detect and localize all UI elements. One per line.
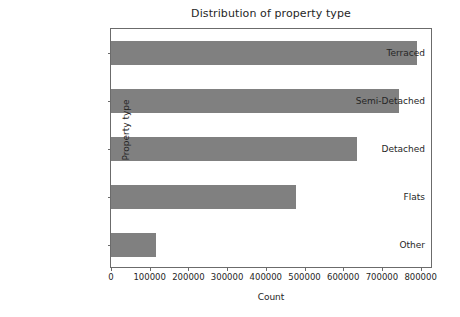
x-tick-mark xyxy=(266,267,267,271)
bar-flats xyxy=(111,185,296,209)
y-tick-mark xyxy=(108,101,112,102)
y-tick-label-other: Other xyxy=(399,240,425,250)
x-tick-label: 200000 xyxy=(172,272,204,282)
y-tick-mark xyxy=(108,53,112,54)
bar-detached xyxy=(111,137,357,161)
x-tick-label: 100000 xyxy=(133,272,165,282)
x-tick-label: 500000 xyxy=(288,272,320,282)
x-tick-label: 800000 xyxy=(404,272,436,282)
x-tick-mark xyxy=(343,267,344,271)
y-tick-label-semi-detached: Semi-Detached xyxy=(356,96,425,106)
x-tick-mark xyxy=(188,267,189,271)
x-tick-label: 0 xyxy=(108,272,113,282)
x-tick-label: 300000 xyxy=(211,272,243,282)
y-tick-mark xyxy=(108,245,112,246)
y-tick-mark xyxy=(108,197,112,198)
x-tick-mark xyxy=(111,267,112,271)
bar-other xyxy=(111,233,156,257)
chart-figure: Distribution of property type Property t… xyxy=(0,0,460,317)
y-tick-label-detached: Detached xyxy=(382,144,425,154)
x-tick-mark xyxy=(150,267,151,271)
plot-area: Property type TerracedSemi-DetachedDetac… xyxy=(110,28,432,268)
y-tick-mark xyxy=(108,149,112,150)
x-tick-mark xyxy=(421,267,422,271)
y-tick-label-terraced: Terraced xyxy=(387,48,425,58)
y-axis-label: Property type xyxy=(121,70,131,190)
x-axis-label: Count xyxy=(110,292,432,302)
x-tick-mark xyxy=(382,267,383,271)
x-tick-mark xyxy=(305,267,306,271)
chart-title: Distribution of property type xyxy=(110,7,432,20)
x-tick-mark xyxy=(227,267,228,271)
x-tick-label: 600000 xyxy=(327,272,359,282)
y-tick-label-flats: Flats xyxy=(404,192,425,202)
bar-terraced xyxy=(111,41,417,65)
x-tick-label: 700000 xyxy=(366,272,398,282)
x-tick-label: 400000 xyxy=(250,272,282,282)
